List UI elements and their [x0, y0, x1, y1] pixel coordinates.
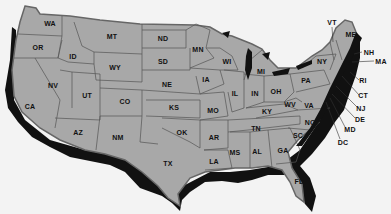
state-label-dc: DC: [338, 139, 349, 146]
state-label-ne: NE: [162, 81, 172, 88]
state-label-mt: MT: [107, 33, 118, 40]
state-label-ut: UT: [82, 92, 92, 99]
state-label-nv: NV: [48, 82, 58, 89]
state-label-mi: MI: [257, 68, 265, 75]
state-label-az: AZ: [73, 129, 83, 136]
state-label-oh: OH: [271, 88, 282, 95]
state-label-pa: PA: [301, 77, 311, 84]
state-label-de: DE: [355, 116, 365, 123]
state-label-al: AL: [252, 148, 262, 155]
state-label-co: CO: [120, 98, 131, 105]
state-label-vt: VT: [327, 19, 336, 26]
state-label-ks: KS: [169, 104, 179, 111]
state-label-wy: WY: [109, 64, 121, 71]
state-label-ny: NY: [317, 58, 327, 65]
state-label-wi: WI: [223, 58, 232, 65]
state-label-sd: SD: [158, 58, 168, 65]
state-label-md: MD: [344, 126, 355, 133]
state-label-il: IL: [232, 90, 239, 97]
state-label-tx: TX: [163, 160, 172, 167]
state-label-me: ME: [346, 31, 357, 38]
state-label-la: LA: [209, 158, 219, 165]
state-label-ok: OK: [177, 129, 188, 136]
state-label-sc: SC: [293, 132, 303, 139]
state-label-ky: KY: [262, 108, 272, 115]
state-label-nd: ND: [158, 35, 169, 42]
state-label-mn: MN: [192, 46, 203, 53]
state-label-tn: TN: [251, 125, 261, 132]
state-label-ri: RI: [359, 77, 366, 84]
state-label-ga: GA: [278, 147, 289, 154]
state-label-wv: WV: [284, 101, 296, 108]
state-label-fl: FL: [295, 178, 304, 185]
state-label-mo: MO: [207, 107, 219, 114]
state-label-nj: NJ: [356, 105, 365, 112]
state-label-ia: IA: [202, 76, 209, 83]
state-label-nh: NH: [364, 49, 375, 56]
state-label-ct: CT: [358, 92, 368, 99]
state-label-nc: NC: [305, 119, 316, 126]
state-label-ar: AR: [209, 134, 220, 141]
map-graphic: [0, 0, 391, 214]
state-label-wa: WA: [44, 20, 56, 27]
state-label-or: OR: [33, 44, 44, 51]
state-label-ca: CA: [25, 103, 36, 110]
state-label-in: IN: [251, 90, 258, 97]
state-label-va: VA: [304, 102, 314, 109]
state-label-id: ID: [69, 53, 76, 60]
us-map: WAORIDMTWYCANVUTCOAZNMNDSDNEKSOKTXMNIAMO…: [0, 0, 391, 214]
state-label-ms: MS: [230, 149, 241, 156]
state-label-ma: MA: [375, 58, 386, 65]
state-label-nm: NM: [112, 134, 123, 141]
